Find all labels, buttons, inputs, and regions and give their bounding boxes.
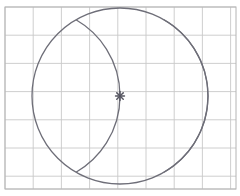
left-construction-arc [76,20,120,172]
right-construction-arc [164,20,208,172]
geometry-figure-svg [0,0,240,196]
center-intersection-marker[interactable] [116,92,125,101]
drawing-canvas[interactable] [0,0,240,196]
